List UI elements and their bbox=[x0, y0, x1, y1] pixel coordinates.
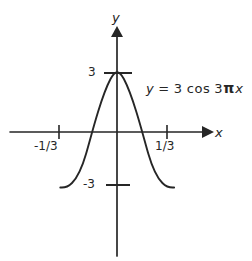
x-tick-label-one-third: 1/3 bbox=[155, 140, 174, 152]
x-tick-label-minus-one-third: -1/3 bbox=[34, 140, 58, 152]
y-axis-label: y bbox=[112, 11, 120, 24]
equation-lhs: y bbox=[146, 81, 154, 96]
y-axis-arrowhead bbox=[111, 26, 123, 37]
y-tick-label-minus-3: -3 bbox=[83, 178, 95, 190]
equation-variable: x bbox=[235, 81, 243, 96]
curve-equation-label: y=3cos3πx bbox=[146, 81, 244, 95]
x-axis-arrowhead bbox=[202, 126, 214, 138]
y-tick-label-3: 3 bbox=[88, 66, 96, 78]
x-axis-label: x bbox=[215, 126, 223, 139]
equation-frequency: 3 bbox=[214, 81, 223, 96]
equation-amplitude: 3 bbox=[174, 81, 183, 96]
pi-symbol: π bbox=[223, 80, 234, 96]
equation-function: cos bbox=[187, 81, 211, 96]
graph-figure: y x 3 -3 -1/3 1/3 y=3cos3πx bbox=[0, 0, 252, 261]
equation-equals: = bbox=[158, 81, 170, 96]
